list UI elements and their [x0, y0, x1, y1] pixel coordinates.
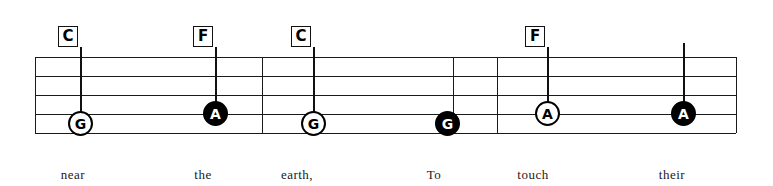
note-a-2[interactable]: A [203, 101, 228, 126]
note-letter: G [308, 117, 320, 131]
note-letter: A [542, 107, 553, 121]
note-g-3[interactable]: G [301, 111, 326, 136]
staff-line-4 [35, 114, 736, 115]
lyric-word-1: near [61, 167, 85, 183]
chord-label: C [62, 29, 73, 44]
staff-line-1 [35, 57, 736, 58]
note-letter: A [678, 107, 689, 121]
staff-right-edge [736, 57, 737, 133]
lyric-word-6: their [659, 167, 685, 183]
chord-box-f-4[interactable]: F [525, 26, 545, 47]
barline-1 [262, 57, 263, 133]
staff-line-3 [35, 95, 736, 96]
lyric-word-5: touch [517, 167, 548, 183]
chord-box-c-1[interactable]: C [58, 26, 78, 47]
chord-label: C [295, 29, 306, 44]
lyric-word-3: earth, [281, 167, 313, 183]
note-a-5[interactable]: A [535, 101, 560, 126]
note-letter: G [75, 117, 87, 131]
chord-label: F [198, 29, 208, 44]
barline-3 [497, 57, 498, 133]
note-a-6[interactable]: A [671, 101, 696, 126]
note-g-1[interactable]: G [68, 111, 93, 136]
chord-box-c-3[interactable]: C [291, 26, 311, 47]
staff-line-5 [35, 133, 736, 134]
staff-line-2 [35, 76, 736, 77]
chord-box-f-2[interactable]: F [193, 26, 213, 47]
lyric-word-4: To [427, 167, 442, 183]
note-g-4[interactable]: G [435, 111, 460, 136]
note-letter: A [210, 107, 221, 121]
lyric-word-2: the [194, 167, 211, 183]
music-staff-sheet: CFCFGAGGAAneartheearth,Totouchtheir [0, 0, 773, 186]
chord-label: F [530, 29, 540, 44]
note-letter: G [442, 117, 454, 131]
staff-left-edge [35, 57, 36, 133]
